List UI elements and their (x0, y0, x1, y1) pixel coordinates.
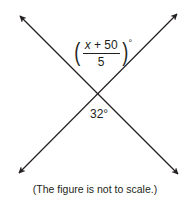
intersecting-lines-figure (0, 0, 190, 205)
figure-caption: (The figure is not to scale.) (0, 183, 190, 195)
angle-fraction: x + 50 5 (83, 39, 120, 68)
lines-canvas (0, 0, 190, 205)
top-angle-label: ( x + 50 5 ) ° (73, 38, 132, 68)
open-paren: ( (74, 39, 80, 65)
degree-symbol: ° (128, 38, 132, 48)
fraction-numerator: x + 50 (83, 39, 120, 54)
close-paren: ) (122, 39, 128, 65)
fraction-denominator: 5 (98, 54, 105, 68)
numerator-rest: + 50 (91, 38, 118, 52)
bottom-angle-label: 32° (90, 108, 108, 120)
